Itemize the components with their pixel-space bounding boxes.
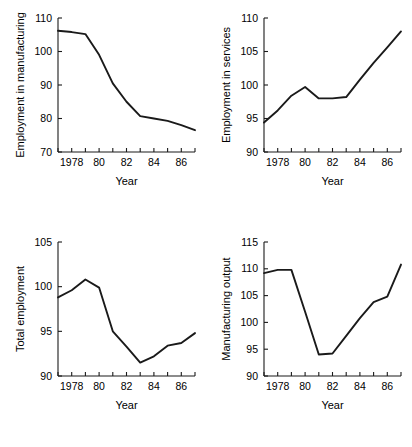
x-tick-label: 86 (381, 380, 393, 392)
data-line-employment-in-manufacturing (58, 31, 195, 130)
x-tick-label: 82 (121, 380, 133, 392)
y-tick-label: 95 (40, 325, 52, 337)
y-tick-label: 95 (246, 343, 258, 355)
x-axis-title: Year (321, 399, 344, 411)
y-tick-label: 110 (241, 262, 258, 274)
y-tick-label: 100 (240, 79, 258, 91)
y-tick-label: 115 (241, 236, 258, 248)
y-tick-label: 105 (240, 45, 258, 57)
x-tick-label: 84 (148, 156, 160, 168)
x-tick-label: 80 (299, 156, 311, 168)
y-tick-label: 100 (34, 280, 52, 292)
y-tick-label: 100 (34, 45, 52, 57)
x-tick-label: 82 (327, 156, 339, 168)
x-tick-label: 86 (381, 156, 393, 168)
y-tick-label: 90 (246, 370, 258, 382)
y-tick-label: 100 (240, 316, 258, 328)
x-axis-title: Year (115, 175, 138, 187)
y-tick-label: 105 (34, 236, 52, 248)
chart-svg-employment-in-manufacturing: 708090100110197880828486YearEmployment i… (0, 0, 206, 223)
x-tick-label: 84 (354, 380, 366, 392)
y-tick-label: 90 (40, 79, 52, 91)
x-tick-label: 82 (121, 156, 133, 168)
x-tick-label: 1978 (60, 156, 84, 168)
x-tick-label: 1978 (266, 156, 290, 168)
y-tick-label: 110 (35, 12, 52, 24)
x-tick-label: 84 (148, 380, 160, 392)
chart-panel-employment-in-services: 9095100105110197880828486YearEmployment … (206, 0, 412, 223)
x-tick-label: 80 (93, 156, 105, 168)
x-tick-label: 86 (175, 156, 187, 168)
chart-svg-manufacturing-output: 9095100105110115197880828486YearManufact… (206, 224, 412, 447)
y-tick-label: 95 (246, 112, 258, 124)
x-tick-label: 84 (354, 156, 366, 168)
figure-sheet: 708090100110197880828486YearEmployment i… (0, 0, 412, 447)
data-line-manufacturing-output (264, 265, 401, 355)
y-tick-label: 90 (40, 370, 52, 382)
y-axis-title: Employment in services (220, 26, 232, 143)
chart-panel-total-employment: 9095100105197880828486YearTotal employme… (0, 224, 206, 447)
y-tick-label: 80 (40, 112, 52, 124)
y-tick-label: 90 (246, 146, 258, 158)
x-tick-label: 1978 (266, 380, 290, 392)
y-axis-title: Total employment (14, 266, 26, 352)
y-tick-label: 105 (240, 289, 258, 301)
x-tick-label: 82 (327, 380, 339, 392)
x-tick-label: 1978 (60, 380, 84, 392)
x-axis-title: Year (321, 175, 344, 187)
chart-panel-employment-in-manufacturing: 708090100110197880828486YearEmployment i… (0, 0, 206, 223)
chart-panel-manufacturing-output: 9095100105110115197880828486YearManufact… (206, 224, 412, 447)
y-tick-label: 110 (241, 12, 258, 24)
chart-svg-total-employment: 9095100105197880828486YearTotal employme… (0, 224, 206, 447)
y-tick-label: 70 (40, 146, 52, 158)
x-axis-title: Year (115, 399, 138, 411)
data-line-employment-in-services (264, 31, 401, 122)
y-axis-title: Employment in manufacturing (14, 12, 26, 158)
x-tick-label: 86 (175, 380, 187, 392)
y-axis-title: Manufacturing output (220, 257, 232, 360)
chart-svg-employment-in-services: 9095100105110197880828486YearEmployment … (206, 0, 412, 223)
data-line-total-employment (58, 280, 195, 363)
x-tick-label: 80 (93, 380, 105, 392)
x-tick-label: 80 (299, 380, 311, 392)
